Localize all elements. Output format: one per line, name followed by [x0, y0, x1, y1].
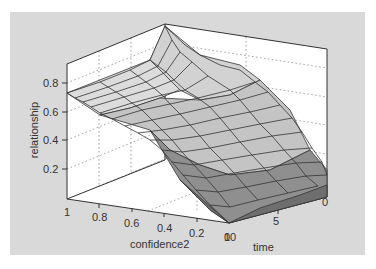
- x-tick-0.6: 0.6: [124, 217, 139, 229]
- z-tick-0.4: 0.4: [43, 134, 58, 146]
- y-axis-label: time: [253, 241, 274, 253]
- surface-plot: 0.8 0.6 0.4 0.2 relationship 1 0.8 0.6 0…: [0, 0, 376, 269]
- y-tick-0: 0: [322, 196, 328, 208]
- x-tick-0.4: 0.4: [157, 222, 172, 234]
- y-tick-10: 10: [224, 231, 236, 243]
- z-tick-0.6: 0.6: [43, 106, 58, 118]
- y-tick-5: 5: [273, 215, 279, 227]
- z-axis-label: relationship: [28, 102, 40, 158]
- x-tick-0.2: 0.2: [189, 227, 204, 239]
- x-tick-1: 1: [64, 206, 70, 218]
- z-axis: 0.8 0.6 0.4 0.2 relationship: [28, 77, 67, 175]
- z-tick-0.2: 0.2: [43, 163, 58, 175]
- x-axis-label: confidence2: [130, 238, 189, 250]
- x-tick-0.8: 0.8: [92, 211, 107, 223]
- z-tick-0.8: 0.8: [43, 77, 58, 89]
